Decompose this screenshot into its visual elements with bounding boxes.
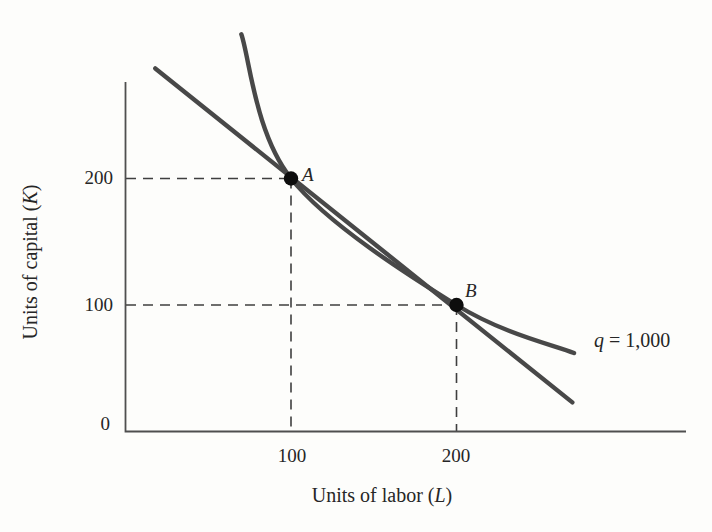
point-label-B: B	[465, 281, 477, 301]
point-dot-b	[449, 298, 463, 312]
isocost-line	[155, 68, 572, 402]
y-axis-title-text: Units of capital (K)	[18, 185, 42, 340]
x-tick-100: 100	[252, 445, 332, 467]
x-tick-200: 200	[416, 445, 496, 467]
chart-canvas	[0, 0, 712, 532]
isoquant-label: q = 1,000	[594, 329, 670, 351]
y-tick-0: 0	[30, 413, 110, 435]
point-label-A: A	[302, 165, 314, 185]
isoquant-figure: Units of capital (K) 200 100 0 100 200 U…	[0, 0, 712, 532]
y-tick-200: 200	[33, 167, 113, 189]
point-dot-a	[284, 171, 298, 185]
x-axis-title: Units of labor (L)	[232, 483, 532, 507]
y-tick-100: 100	[33, 294, 113, 316]
axes	[126, 82, 687, 432]
